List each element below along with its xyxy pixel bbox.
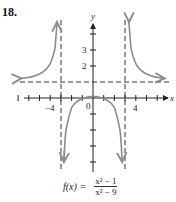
y-tick-label-2: 2: [82, 61, 87, 71]
curve-middle-branch-left-arrow: [64, 150, 65, 162]
function-formula: f(x) = x² − 1 x² − 9: [63, 176, 117, 197]
x-tick-label-0: 0: [86, 101, 91, 111]
formula-numerator: x² − 1: [94, 176, 117, 187]
formula-lhs: f(x) =: [63, 181, 86, 192]
formula-denominator: x² − 9: [95, 187, 116, 197]
formula-fraction: x² − 1 x² − 9: [94, 176, 117, 197]
curve-left-branch: [21, 22, 57, 78]
x-tick-label-4: 4: [133, 103, 138, 113]
graph: x −4 0 4 y 3 2: [0, 0, 176, 202]
curve-right-branch: [129, 22, 165, 78]
x-tick-label-neg4: −4: [45, 103, 55, 113]
x-axis-label: x: [169, 93, 174, 103]
y-axis-label: y: [90, 11, 95, 21]
y-tick-label-3: 3: [82, 45, 87, 55]
